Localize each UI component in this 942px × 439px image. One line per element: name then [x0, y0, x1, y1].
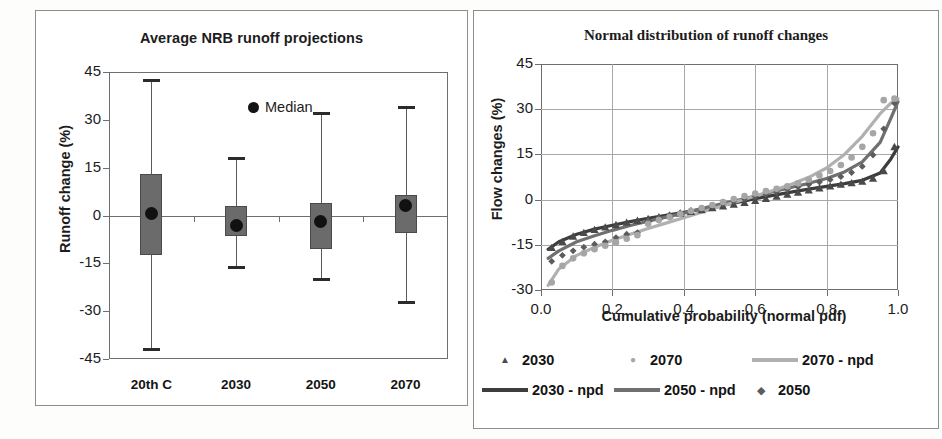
- data-point: [891, 95, 898, 102]
- whisker-cap-high[interactable]: [398, 106, 415, 109]
- y-tick-label[interactable]: 45: [479, 54, 533, 71]
- data-point: [752, 190, 759, 197]
- y-tick[interactable]: [103, 168, 109, 169]
- data-point: [559, 252, 566, 259]
- y-tick-label[interactable]: 15: [479, 144, 533, 161]
- median-dot-icon[interactable]: [248, 102, 259, 113]
- legend-label[interactable]: 2050 - npd: [664, 382, 736, 398]
- x-tick-label[interactable]: 0.0: [513, 300, 569, 317]
- series-line: [548, 99, 898, 286]
- data-point: [784, 183, 791, 190]
- y-tick-label[interactable]: 0: [45, 206, 101, 223]
- legend-marker-diamond-icon[interactable]: ◆: [752, 385, 770, 396]
- legend-row[interactable]: 2030 - npd2050 - npd◆2050: [474, 377, 938, 403]
- legend-label[interactable]: 2050: [778, 382, 810, 398]
- x-tick[interactable]: [194, 216, 195, 222]
- whisker-cap-low[interactable]: [143, 348, 160, 351]
- y-tick-label[interactable]: 0: [479, 190, 533, 207]
- x-tick[interactable]: [612, 290, 613, 296]
- data-point: [827, 168, 834, 175]
- legend-label[interactable]: 2070: [650, 352, 682, 368]
- y-axis-label: Runoff change (%): [57, 114, 73, 264]
- data-point: [613, 239, 620, 246]
- data-point: [656, 217, 663, 224]
- legend-marker-triangle-icon[interactable]: ▲: [496, 355, 514, 365]
- data-point: [763, 188, 770, 195]
- whisker-cap-low[interactable]: [313, 278, 330, 281]
- y-tick[interactable]: [103, 120, 109, 121]
- whisker-cap-high[interactable]: [228, 157, 245, 160]
- series-markers: [548, 95, 897, 285]
- legend-row[interactable]: ▲2030●20702070 - npd: [474, 347, 938, 373]
- x-tick-label[interactable]: 0.4: [656, 300, 712, 317]
- data-point: [559, 263, 566, 270]
- legend-label[interactable]: 2030 - npd: [532, 382, 604, 398]
- x-tick[interactable]: [279, 216, 280, 222]
- y-tick[interactable]: [103, 263, 109, 264]
- x-category-label[interactable]: 2030: [190, 377, 282, 392]
- x-category-label[interactable]: 20th C: [105, 377, 197, 392]
- data-point: [634, 232, 641, 239]
- x-tick[interactable]: [755, 290, 756, 296]
- y-tick-label[interactable]: 30: [45, 110, 101, 127]
- x-category-label[interactable]: 2070: [360, 377, 452, 392]
- legend-item[interactable]: 2070 - npd: [752, 347, 874, 373]
- data-point: [666, 214, 673, 221]
- page-title: Normal distribution of runoff changes: [474, 27, 938, 44]
- whisker-cap-low[interactable]: [228, 266, 245, 269]
- x-tick[interactable]: [898, 290, 899, 296]
- whisker-cap-high[interactable]: [313, 112, 330, 115]
- x-tick-label[interactable]: 0.6: [727, 300, 783, 317]
- legend-label[interactable]: 2030: [522, 352, 554, 368]
- box-plot-panel: Average NRB runoff projections Runoff ch…: [35, 10, 468, 406]
- plot-area: Median: [109, 72, 448, 359]
- y-tick[interactable]: [103, 72, 109, 73]
- x-category-label[interactable]: 2050: [275, 377, 367, 392]
- legend-item[interactable]: ▲2030: [496, 347, 554, 373]
- data-point: [741, 193, 748, 200]
- y-tick-label[interactable]: -30: [479, 280, 533, 297]
- x-tick[interactable]: [684, 290, 685, 296]
- data-point: [730, 196, 737, 203]
- y-tick-label[interactable]: 15: [45, 158, 101, 175]
- data-point: [795, 180, 802, 187]
- y-tick-label[interactable]: 30: [479, 99, 533, 116]
- y-tick-label[interactable]: -45: [45, 349, 101, 366]
- plot-top-border[interactable]: [109, 72, 448, 73]
- x-tick[interactable]: [541, 290, 542, 296]
- y-tick-label[interactable]: -15: [479, 235, 533, 252]
- whisker-line[interactable]: [321, 113, 322, 279]
- x-tick[interactable]: [827, 290, 828, 296]
- data-point: [548, 279, 555, 286]
- y-tick[interactable]: [103, 216, 109, 217]
- legend-line-swatch[interactable]: [482, 388, 528, 392]
- y-tick-label[interactable]: 45: [45, 62, 101, 79]
- data-point: [859, 144, 866, 151]
- legend-median-label[interactable]: Median: [265, 99, 313, 115]
- legend-item[interactable]: 2030 - npd: [482, 377, 604, 403]
- y-tick-label[interactable]: -15: [45, 253, 101, 270]
- data-point: [688, 208, 695, 215]
- whisker-cap-high[interactable]: [143, 79, 160, 82]
- legend-item[interactable]: ●2070: [624, 347, 682, 373]
- x-tick-label[interactable]: 0.8: [799, 300, 855, 317]
- data-point: [581, 250, 588, 257]
- legend-median[interactable]: Median: [248, 99, 313, 115]
- x-tick-label[interactable]: 0.2: [584, 300, 640, 317]
- whisker-cap-low[interactable]: [398, 301, 415, 304]
- data-point: [570, 247, 577, 254]
- legend-line-swatch[interactable]: [752, 358, 798, 362]
- x-tick-label[interactable]: 1.0: [870, 300, 926, 317]
- y-tick[interactable]: [103, 311, 109, 312]
- legend-line-swatch[interactable]: [614, 388, 660, 392]
- legend-marker-circle-icon[interactable]: ●: [624, 355, 642, 365]
- legend-label[interactable]: 2070 - npd: [802, 352, 874, 368]
- median-marker[interactable]: [230, 219, 243, 232]
- x-tick[interactable]: [363, 216, 364, 222]
- y-tick-label[interactable]: -30: [45, 301, 101, 318]
- legend-item[interactable]: ◆2050: [752, 377, 810, 403]
- plot-bottom-border[interactable]: [109, 358, 448, 359]
- legend-item[interactable]: 2050 - npd: [614, 377, 736, 403]
- y-tick[interactable]: [103, 359, 109, 360]
- series-layer: [541, 64, 898, 290]
